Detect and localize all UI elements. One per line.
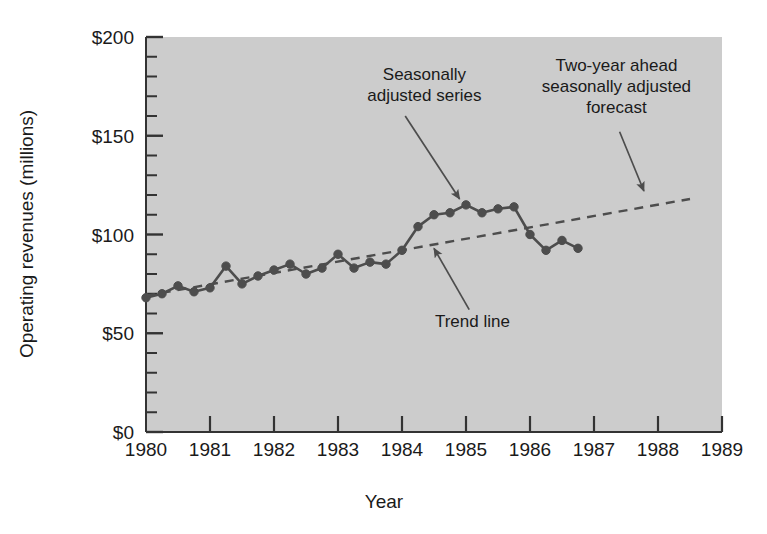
data-point-marker xyxy=(302,270,310,278)
data-point-marker xyxy=(206,284,214,292)
data-point-marker xyxy=(222,262,230,270)
data-point-marker xyxy=(270,266,278,274)
data-point-marker xyxy=(254,272,262,280)
chart-figure: $0$50$100$150$200 1980198119821983198419… xyxy=(0,0,767,534)
data-point-marker xyxy=(494,205,502,213)
data-point-marker xyxy=(446,209,454,217)
data-point-marker xyxy=(574,244,582,252)
data-point-marker xyxy=(286,260,294,268)
operating-revenues-line-chart: $0$50$100$150$200 1980198119821983198419… xyxy=(0,0,767,534)
data-point-marker xyxy=(478,209,486,217)
y-axis-tick-label: $100 xyxy=(92,225,134,246)
x-axis-tick-label: 1989 xyxy=(701,439,743,460)
x-axis-title: Year xyxy=(365,491,404,512)
x-axis-tick-label: 1985 xyxy=(445,439,487,460)
data-point-marker xyxy=(462,201,470,209)
x-axis-tick-label: 1983 xyxy=(317,439,359,460)
y-axis-tick-label: $50 xyxy=(102,323,134,344)
data-point-marker xyxy=(190,288,198,296)
data-point-marker xyxy=(398,246,406,254)
x-axis-tick-label: 1987 xyxy=(573,439,615,460)
data-point-marker xyxy=(334,250,342,258)
data-point-marker xyxy=(430,211,438,219)
data-point-marker xyxy=(366,258,374,266)
data-point-marker xyxy=(510,203,518,211)
data-point-marker xyxy=(382,260,390,268)
x-axis-tick-label: 1981 xyxy=(189,439,231,460)
data-point-marker xyxy=(158,290,166,298)
data-point-marker xyxy=(238,280,246,288)
x-axis-tick-label: 1980 xyxy=(125,439,167,460)
y-axis-tick-label: $200 xyxy=(92,27,134,48)
data-point-marker xyxy=(142,294,150,302)
x-axis-tick-label: 1988 xyxy=(637,439,679,460)
x-axis-tick-label: 1986 xyxy=(509,439,551,460)
annotation-label: Trend line xyxy=(435,312,510,331)
x-axis-tick-label: 1984 xyxy=(381,439,424,460)
data-point-marker xyxy=(414,222,422,230)
y-axis-tick-label: $150 xyxy=(92,126,134,147)
data-point-marker xyxy=(526,230,534,238)
data-point-marker xyxy=(350,264,358,272)
data-point-marker xyxy=(558,236,566,244)
data-point-marker xyxy=(318,264,326,272)
y-axis-title: Operating revenues (millions) xyxy=(16,110,37,358)
data-point-marker xyxy=(174,282,182,290)
data-point-marker xyxy=(542,246,550,254)
x-axis-tick-label: 1982 xyxy=(253,439,295,460)
